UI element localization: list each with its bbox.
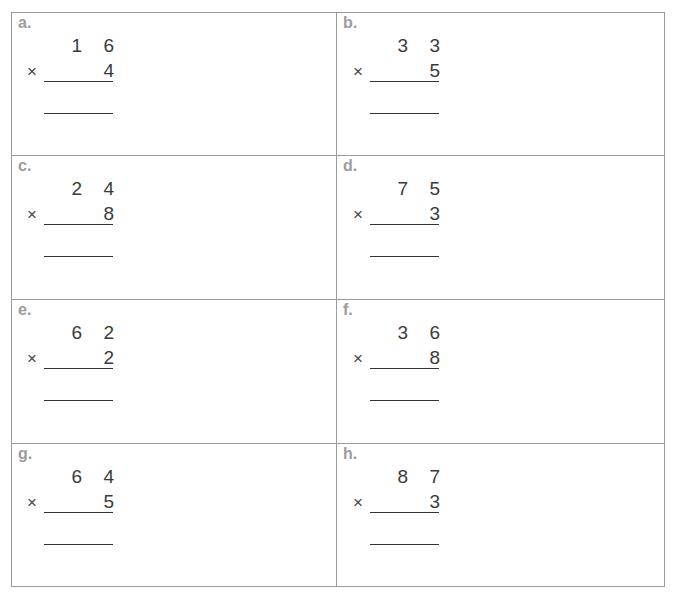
product-rule <box>44 81 113 82</box>
multiplication-worksheet: a. 1 6 × 4 b. 3 3 × 5 c. 2 4 × 8 d. 7 5 … <box>11 12 665 587</box>
product-rule <box>370 81 439 82</box>
answer-blank[interactable] <box>370 400 439 401</box>
multiplicand: 3 3 <box>370 34 440 58</box>
multiply-sign-icon: × <box>27 492 37 514</box>
problem-d: d. 7 5 × 3 <box>337 156 664 300</box>
multiplicand: 3 6 <box>370 321 440 345</box>
multiplier: 5 <box>370 59 440 83</box>
problem-f: f. 3 6 × 8 <box>337 300 664 444</box>
problem-b: b. 3 3 × 5 <box>337 13 664 156</box>
multiplicand: 6 2 <box>44 321 114 345</box>
multiply-sign-icon: × <box>353 61 363 83</box>
product-rule <box>370 512 439 513</box>
answer-blank[interactable] <box>370 544 439 545</box>
answer-blank[interactable] <box>44 544 113 545</box>
multiplicand: 6 4 <box>44 465 114 489</box>
problem-c: c. 2 4 × 8 <box>12 156 337 300</box>
problem-label: b. <box>343 13 357 33</box>
multiplier: 4 <box>44 59 114 83</box>
product-rule <box>370 368 439 369</box>
problem-label: f. <box>343 300 353 320</box>
answer-blank[interactable] <box>44 113 113 114</box>
multiplier: 3 <box>370 490 440 514</box>
multiply-sign-icon: × <box>27 348 37 370</box>
multiplier: 2 <box>44 346 114 370</box>
answer-blank[interactable] <box>44 256 113 257</box>
multiplicand: 7 5 <box>370 177 440 201</box>
multiply-sign-icon: × <box>353 348 363 370</box>
product-rule <box>44 512 113 513</box>
answer-blank[interactable] <box>370 256 439 257</box>
answer-blank[interactable] <box>370 113 439 114</box>
problem-label: c. <box>18 156 31 176</box>
multiplier: 5 <box>44 490 114 514</box>
problem-label: e. <box>18 300 31 320</box>
multiply-sign-icon: × <box>353 204 363 226</box>
product-rule <box>370 224 439 225</box>
problem-a: a. 1 6 × 4 <box>12 13 337 156</box>
problem-e: e. 6 2 × 2 <box>12 300 337 444</box>
problem-label: h. <box>343 444 357 464</box>
problem-label: a. <box>18 13 31 33</box>
multiplicand: 2 4 <box>44 177 114 201</box>
multiply-sign-icon: × <box>27 61 37 83</box>
multiply-sign-icon: × <box>27 204 37 226</box>
multiplier: 8 <box>44 202 114 226</box>
problem-h: h. 8 7 × 3 <box>337 444 664 586</box>
multiplier: 3 <box>370 202 440 226</box>
multiplicand: 8 7 <box>370 465 440 489</box>
product-rule <box>44 368 113 369</box>
problem-label: d. <box>343 156 357 176</box>
problem-g: g. 6 4 × 5 <box>12 444 337 586</box>
answer-blank[interactable] <box>44 400 113 401</box>
problem-label: g. <box>18 444 32 464</box>
product-rule <box>44 224 113 225</box>
multiplier: 8 <box>370 346 440 370</box>
multiplicand: 1 6 <box>44 34 114 58</box>
multiply-sign-icon: × <box>353 492 363 514</box>
